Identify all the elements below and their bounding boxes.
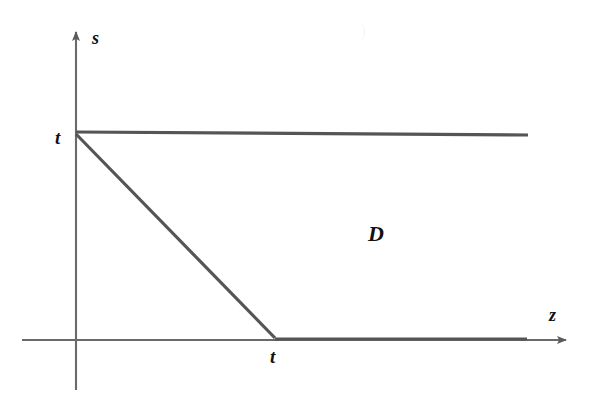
region-top-boundary	[76, 132, 528, 135]
s-axis-tick-label-t: t	[55, 128, 60, 147]
region-d-label: D	[368, 223, 384, 245]
figure-canvas: s z t t D	[0, 0, 602, 410]
diagram-svg	[0, 0, 602, 410]
z-axis-label: z	[549, 306, 556, 324]
z-axis-tick-label-t: t	[270, 347, 275, 366]
s-axis-label: s	[92, 29, 99, 47]
region-diagonal-boundary	[76, 134, 275, 338]
